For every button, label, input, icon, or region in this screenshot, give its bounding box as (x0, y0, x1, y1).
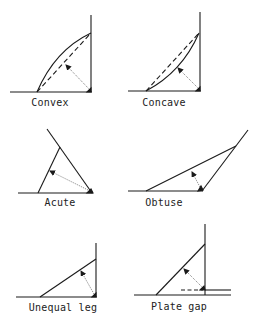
concave-figure (128, 12, 201, 91)
label-convex: Convex (31, 97, 68, 108)
plate-gap-figure (134, 224, 231, 295)
label-concave: Concave (142, 97, 186, 108)
acute-figure (18, 129, 93, 193)
label-plate-gap: Plate gap (151, 301, 207, 312)
obtuse-figure (128, 130, 248, 191)
diagram-canvas (0, 0, 257, 327)
convex-figure (10, 15, 92, 92)
unequal-leg-figure (16, 243, 97, 297)
label-unequal-leg: Unequal leg (29, 302, 97, 313)
label-acute: Acute (44, 197, 75, 208)
weld-profiles-diagram: Convex Concave Acute Obtuse Unequal leg … (0, 0, 257, 327)
label-obtuse: Obtuse (145, 197, 182, 208)
